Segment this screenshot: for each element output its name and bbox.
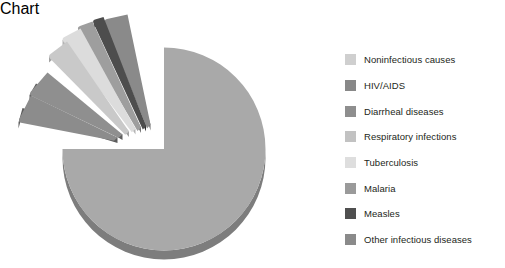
- legend-item-label: Respiratory infections: [364, 131, 456, 142]
- legend-item-label: Malaria: [364, 183, 396, 194]
- legend-item-label: Other infectious diseases: [364, 234, 472, 245]
- legend-item-other-infectious-diseases[interactable]: Other infectious diseases: [345, 227, 505, 253]
- legend-swatch-icon: [345, 54, 356, 65]
- legend-item-hiv-aids[interactable]: HIV/AIDS: [345, 73, 505, 99]
- legend-item-measles[interactable]: Measles: [345, 201, 505, 227]
- legend-item-label: Noninfectious causes: [364, 54, 455, 65]
- legend-item-tuberculosis[interactable]: Tuberculosis: [345, 150, 505, 176]
- legend-item-noninfectious-causes[interactable]: Noninfectious causes: [345, 47, 505, 73]
- legend-swatch-icon: [345, 183, 356, 194]
- pie-chart-svg: [0, 0, 340, 268]
- legend-swatch-icon: [345, 131, 356, 142]
- legend-item-malaria[interactable]: Malaria: [345, 175, 505, 201]
- legend-swatch-icon: [345, 106, 356, 117]
- pie-chart-figure: Noninfectious causes HIV/AIDS Diarrheal …: [0, 0, 505, 268]
- legend-item-label: Measles: [364, 208, 400, 219]
- pie-chart-plot-area: [0, 0, 340, 268]
- legend-swatch-icon: [345, 234, 356, 245]
- legend-swatch-icon: [345, 208, 356, 219]
- legend-swatch-icon: [345, 157, 356, 168]
- legend-item-diarrheal-diseases[interactable]: Diarrheal diseases: [345, 98, 505, 124]
- legend-item-label: HIV/AIDS: [364, 80, 405, 91]
- legend-item-respiratory-infections[interactable]: Respiratory infections: [345, 124, 505, 150]
- legend-item-label: Tuberculosis: [364, 157, 418, 168]
- legend-swatch-icon: [345, 80, 356, 91]
- chart-legend: Noninfectious causes HIV/AIDS Diarrheal …: [345, 47, 505, 253]
- legend-item-label: Diarrheal diseases: [364, 106, 444, 117]
